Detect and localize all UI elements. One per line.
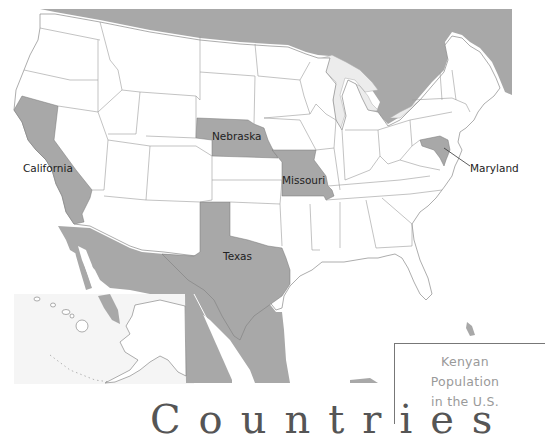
bottom-title-cropped: Countries [150, 396, 510, 438]
label-maryland: Maryland [470, 162, 519, 174]
bahamas [466, 322, 475, 336]
cuba [350, 378, 378, 383]
label-california: California [23, 162, 73, 174]
label-texas: Texas [223, 250, 252, 262]
label-nebraska: Nebraska [212, 130, 262, 142]
label-missouri: Missouri [282, 174, 325, 186]
legend-line-1: Kenyan [395, 344, 535, 372]
legend-line-2: Population [395, 372, 535, 392]
